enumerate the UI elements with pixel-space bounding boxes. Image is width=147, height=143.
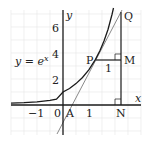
point-label-A: A	[65, 107, 75, 120]
right-angle-marker-M	[115, 54, 121, 60]
segment-label-PM: 1	[105, 62, 112, 75]
y-tick-6: 6	[52, 22, 59, 35]
y-tick-4: 4	[52, 48, 59, 61]
curve-equation-label: y = ex	[14, 54, 49, 68]
point-label-P: P	[86, 54, 94, 67]
x-tick-0: 0	[54, 107, 61, 120]
y-axis-label: y	[65, 9, 73, 22]
point-label-N: N	[116, 107, 126, 120]
point-label-M: M	[124, 54, 135, 67]
diagram-canvas: y x 6 4 2 −1 0 1 A N P M Q 1 y = ex	[0, 0, 147, 143]
x-tick-1: 1	[86, 107, 93, 120]
x-axis-label: x	[135, 92, 142, 105]
y-tick-2: 2	[52, 74, 59, 87]
point-label-Q: Q	[124, 10, 133, 23]
right-angle-marker-N	[115, 99, 121, 105]
x-tick-neg1: −1	[28, 107, 44, 120]
